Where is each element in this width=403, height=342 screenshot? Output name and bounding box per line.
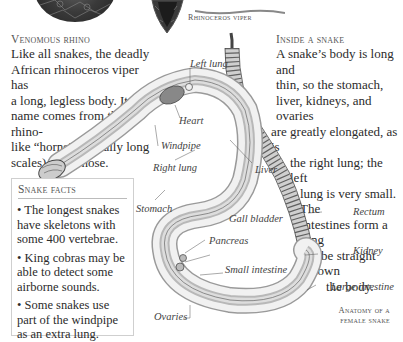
label-small-intestine: Small intestine xyxy=(225,264,287,275)
snake-facts-title: Snake facts xyxy=(18,183,127,199)
label-heart: Heart xyxy=(179,115,204,126)
label-large-intestine: Large intestine xyxy=(331,281,394,292)
diagram-caption: Anatomy of a female snake xyxy=(320,305,390,325)
caption-line: Anatomy of a xyxy=(320,305,390,315)
label-kidney: Kidney xyxy=(353,245,383,256)
label-rectum: Rectum xyxy=(353,206,385,217)
caption-line: female snake xyxy=(320,315,390,325)
fact-item: • Some snakes use part of the windpipe a… xyxy=(17,298,128,342)
label-right-lung: Right lung xyxy=(153,162,197,173)
label-liver: Liver xyxy=(255,164,277,175)
label-ovaries: Ovaries xyxy=(154,311,187,322)
label-windpipe: Windpipe xyxy=(161,140,201,151)
label-left-lung: Left lung xyxy=(190,58,228,69)
fact-item: • The longest snakes have skeletons with… xyxy=(17,203,128,247)
snake-facts-box: Snake facts • The longest snakes have sk… xyxy=(11,178,134,336)
label-stomach: Stomach xyxy=(136,203,172,214)
fact-item: • King cobras may be able to detect some… xyxy=(17,251,128,295)
label-pancreas: Pancreas xyxy=(209,235,248,246)
label-gall-bladder: Gall bladder xyxy=(229,213,283,224)
left-lung-organ xyxy=(186,84,193,91)
